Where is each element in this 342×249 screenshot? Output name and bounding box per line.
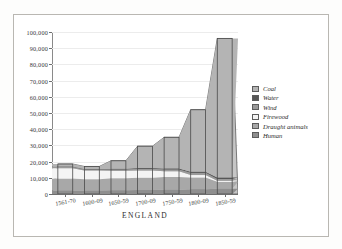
x-axis-tick-label: 1561-70 — [55, 197, 76, 207]
bar-segment — [138, 146, 153, 168]
bar-segment — [111, 169, 126, 170]
legend-item: Firewood — [252, 113, 342, 120]
legend-item: Draught animals — [252, 123, 342, 130]
bar-segment — [164, 169, 179, 171]
bar-segment — [138, 178, 153, 190]
chart-plate: 010,00020,00030,00040,00050,00060,00070,… — [13, 14, 329, 237]
bar-segment — [191, 175, 206, 177]
x-axis-tick — [65, 194, 66, 197]
bar-segment — [111, 178, 126, 190]
chart-axes: 010,00020,00030,00040,00050,00060,00070,… — [52, 32, 238, 208]
x-axis-tick-label: 1800-09 — [188, 197, 209, 207]
y-axis-tick-label: 100,000 — [26, 29, 48, 36]
bar-segment — [191, 110, 206, 172]
bar-group — [111, 161, 126, 194]
bar-segment — [217, 181, 232, 182]
x-axis-tick — [145, 194, 146, 197]
legend-item-label: Human — [263, 132, 282, 139]
legend-item: Coal — [252, 85, 342, 92]
x-axis-tick — [198, 194, 199, 197]
bar-group — [138, 146, 153, 194]
running-head — [0, 0, 342, 12]
bar-segment — [138, 171, 153, 178]
legend-item-label: Coal — [263, 85, 276, 92]
bar-segment — [164, 137, 179, 168]
bar-segment — [217, 182, 232, 189]
bar-segment — [84, 169, 99, 170]
bar-segment — [191, 177, 206, 189]
x-axis-tick-label: 1700-09 — [135, 197, 156, 207]
bar-segment — [164, 168, 179, 169]
bar-segment — [111, 161, 126, 169]
bar-segment — [138, 169, 153, 171]
legend-item: Water — [252, 94, 342, 101]
x-axis-tick-label: 1850-59 — [215, 197, 236, 207]
legend-item-label: Firewood — [263, 113, 288, 120]
legend-swatch-icon — [252, 104, 259, 110]
y-axis-tick-label: 80,000 — [30, 61, 48, 68]
stacked-bar-plot — [52, 32, 238, 194]
legend-swatch-icon — [252, 95, 259, 101]
y-axis-tick-label: 60,000 — [30, 93, 48, 100]
legend-swatch-icon — [252, 132, 259, 138]
legend-swatch-icon — [252, 86, 259, 92]
chart-figure: 010,00020,00030,00040,00050,00060,00070,… — [0, 0, 342, 249]
bar-segment — [58, 179, 73, 191]
bar-segment — [58, 167, 73, 168]
y-axis-tick-label: 10,000 — [30, 174, 48, 181]
bar-segment — [217, 179, 232, 181]
legend-swatch-icon — [252, 114, 259, 120]
bar-segment — [58, 168, 73, 178]
chart-legend: CoalWaterWindFirewoodDraught animalsHuma… — [252, 85, 342, 141]
x-axis-tick — [118, 194, 119, 197]
bar-segment — [138, 168, 153, 169]
bar-segment — [164, 171, 179, 177]
legend-item-label: Wind — [263, 104, 277, 111]
x-axis-tick-label: 1750-59 — [161, 197, 182, 207]
bar-segment — [217, 38, 232, 177]
bar-group — [191, 110, 206, 194]
bar-group — [58, 164, 73, 194]
bar-segment — [84, 179, 99, 190]
bar-segment — [164, 177, 179, 190]
x-axis-tick — [172, 194, 173, 197]
plot-area — [52, 32, 238, 194]
bar-segment — [191, 173, 206, 175]
y-axis-tick-label: 70,000 — [30, 77, 48, 84]
y-axis-tick-label: 50,000 — [30, 110, 48, 117]
x-axis-tick-label: 1650-59 — [108, 197, 129, 207]
legend-item-label: Draught animals — [263, 123, 308, 130]
y-axis-tick-label: 20,000 — [30, 158, 48, 165]
y-axis-tick-label: 40,000 — [30, 126, 48, 133]
chart-caption: ENGLAND — [14, 211, 276, 220]
x-axis-tick — [225, 194, 226, 197]
x-axis-tick-label: 1600-09 — [82, 197, 103, 207]
bar-segment — [217, 177, 232, 178]
y-axis-tick-label: 90,000 — [30, 45, 48, 52]
y-axis-tick-label: 0 — [45, 191, 48, 198]
legend-swatch-icon — [252, 123, 259, 129]
y-axis-tick — [49, 194, 52, 195]
legend-item: Wind — [252, 104, 342, 111]
bar-segment — [111, 171, 126, 178]
legend-item: Human — [252, 132, 342, 139]
bar-group — [84, 166, 99, 194]
bar-group — [164, 137, 179, 194]
legend-item-label: Water — [263, 94, 279, 101]
x-axis-tick — [92, 194, 93, 197]
y-axis-tick-label: 30,000 — [30, 142, 48, 149]
bar-group — [217, 38, 232, 194]
bar-segment — [191, 172, 206, 173]
bar-segment — [111, 169, 126, 170]
bar-segment — [84, 171, 99, 180]
